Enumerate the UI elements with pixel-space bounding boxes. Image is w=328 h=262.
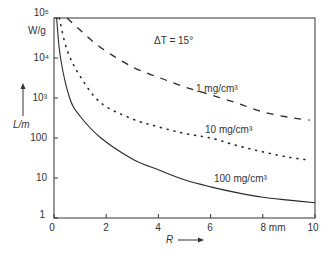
x-tick-0: 0 [37,223,67,233]
x-tick-4: 4 [143,223,173,233]
y-unit-label: W/g [28,26,46,36]
delta-t-annotation: ΔT = 15° [154,36,193,46]
x-axis-label: R [166,235,173,245]
y-tick-1e5: 10⁵ [19,8,49,18]
x-tick-10: 10 [298,223,328,233]
series-label-100mg: 100 mg/cm³ [214,174,267,184]
x-tick-8mm: 8 mm [253,223,293,233]
x-arrow-head-icon [198,238,204,243]
y-axis-label: L/m [13,120,30,130]
y-tick-1: 1 [15,210,45,220]
x-tick-6: 6 [195,223,225,233]
y-tick-10: 10 [17,173,47,183]
plot-frame [54,18,315,218]
y-tick-1e4: 10⁴ [19,53,49,63]
x-tick-2: 2 [91,223,121,233]
y-arrow-head-icon [21,83,26,89]
axis-ticks [54,18,315,218]
y-tick-1e3: 10³ [17,93,47,103]
series-label-1mg: 1 mg/cm³ [196,84,238,94]
y-tick-100: 100 [17,133,47,143]
series-label-10mg: 10 mg/cm³ [205,125,252,135]
